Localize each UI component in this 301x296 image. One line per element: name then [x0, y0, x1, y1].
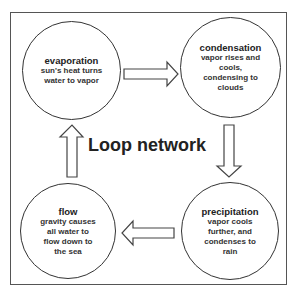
node-desc: cools, — [219, 63, 242, 73]
diagram-title: Loop network — [88, 135, 206, 156]
node-title: evaporation — [45, 55, 99, 66]
node-desc: all water to — [47, 227, 89, 237]
node-evaporation: evaporation sun's heat turns water to va… — [22, 21, 121, 120]
node-condensation: condensation vapor rises and cools, cond… — [180, 17, 281, 118]
arrow-down-icon — [217, 125, 241, 177]
node-desc: clouds — [218, 83, 244, 93]
loop-network-diagram: evaporation sun's heat turns water to va… — [0, 0, 301, 296]
node-desc: flow down to — [44, 237, 93, 247]
node-desc: condenses to — [204, 237, 256, 247]
node-desc: sun's heat turns — [41, 66, 102, 76]
node-desc: rain — [223, 247, 238, 257]
node-precipitation: precipitation vapor cools further, and c… — [181, 182, 279, 280]
node-title: flow — [59, 206, 78, 217]
node-desc: vapor rises and — [201, 53, 260, 63]
node-title: precipitation — [201, 206, 258, 217]
node-desc: further, and — [208, 227, 252, 237]
node-desc: vapor cools — [208, 217, 253, 227]
node-flow: flow gravity causes all water to flow do… — [20, 183, 116, 279]
arrow-up-icon — [60, 125, 83, 177]
arrow-left-icon — [122, 221, 174, 245]
node-desc: gravity causes — [40, 217, 96, 227]
node-desc: condensing to — [203, 73, 258, 83]
arrow-right-icon — [124, 62, 178, 86]
node-desc: water to vapor — [44, 76, 99, 86]
node-title: condensation — [200, 42, 262, 53]
node-desc: the sea — [54, 247, 82, 257]
